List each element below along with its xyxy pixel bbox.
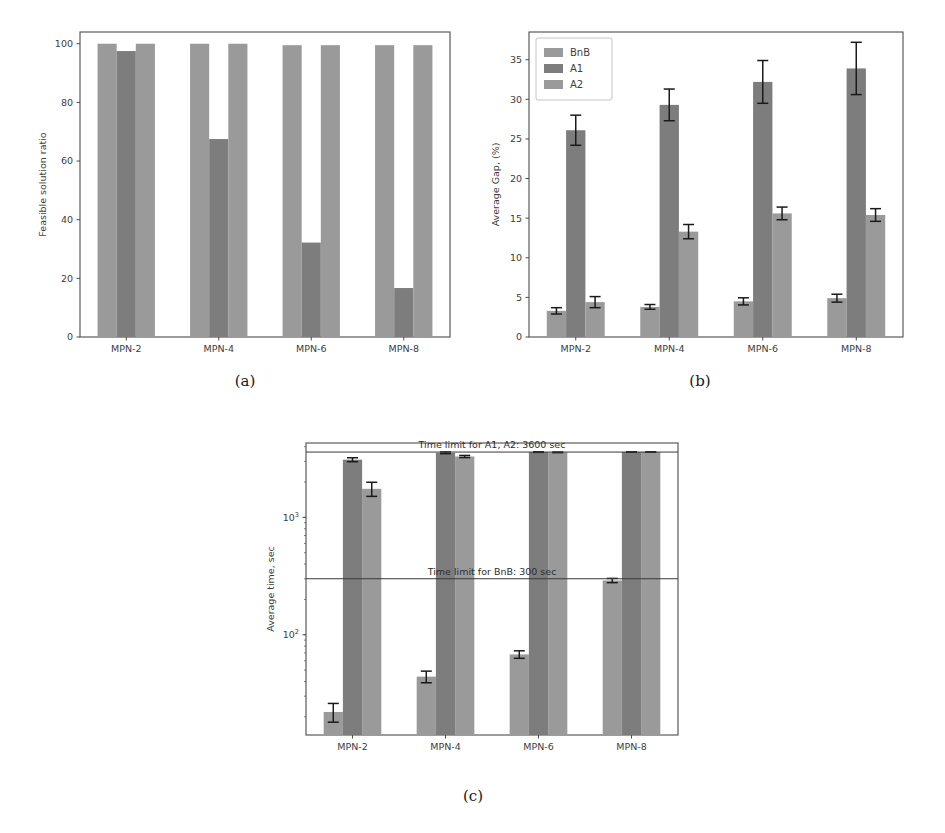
annotation-label-1: Time limit for BnB: 300 sec (427, 566, 557, 577)
bar-A2-MPN-8 (641, 452, 660, 735)
bar-BnB-MPN-8 (375, 45, 394, 337)
y-axis-label: Average time, sec (265, 546, 276, 632)
bar-BnB-MPN-4 (190, 44, 209, 337)
bar-BnB-MPN-6 (734, 301, 753, 337)
y-tick-label: 100 (55, 38, 73, 49)
panel-a-svg: 020406080100MPN-2MPN-4MPN-6MPN-8Feasible… (20, 18, 470, 398)
y-tick-label: 0 (67, 331, 73, 342)
bar-BnB-MPN-4 (417, 677, 436, 735)
legend-label-BnB: BnB (570, 47, 590, 58)
bar-A2-MPN-8 (413, 45, 432, 337)
bar-A2-MPN-2 (362, 489, 381, 735)
panel-c-average-time: 102103MPN-2MPN-4MPN-6MPN-8Average time, … (248, 425, 698, 815)
bar-A1-MPN-4 (660, 105, 679, 337)
bar-A2-MPN-6 (321, 45, 340, 337)
y-tick-label: 25 (510, 133, 522, 144)
bar-A1-MPN-6 (302, 243, 321, 337)
bar-A2-MPN-4 (679, 232, 698, 337)
panel-a-feasible-solution-ratio: 020406080100MPN-2MPN-4MPN-6MPN-8Feasible… (20, 18, 470, 398)
bar-BnB-MPN-8 (603, 580, 622, 735)
bar-A1-MPN-2 (343, 460, 362, 735)
panel-a-caption: (a) (20, 372, 470, 390)
y-tick-label: 20 (61, 273, 73, 284)
x-tick-label-MPN-4: MPN-4 (654, 343, 685, 354)
y-tick-label: 80 (61, 97, 73, 108)
y-tick-label: 5 (516, 292, 522, 303)
y-tick-label: 15 (510, 213, 522, 224)
y-axis-label: Average Gap, (%) (490, 143, 501, 227)
figure-container: 020406080100MPN-2MPN-4MPN-6MPN-8Feasible… (0, 0, 945, 833)
bar-A1-MPN-2 (566, 130, 585, 337)
x-tick-label-MPN-2: MPN-2 (337, 741, 368, 752)
x-tick-label-MPN-4: MPN-4 (203, 343, 234, 354)
x-tick-label-MPN-4: MPN-4 (430, 741, 461, 752)
y-tick-label: 20 (510, 173, 522, 184)
x-tick-label-MPN-8: MPN-8 (841, 343, 872, 354)
panel-b-svg: 05101520253035MPN-2MPN-4MPN-6MPN-8Averag… (475, 18, 925, 398)
errorbar-BnB-MPN-4 (644, 305, 655, 310)
x-tick-label-MPN-6: MPN-6 (296, 343, 327, 354)
y-tick-label: 102 (283, 628, 299, 640)
bar-A1-MPN-8 (622, 452, 641, 735)
y-tick-label: 103 (283, 511, 299, 523)
bar-BnB-MPN-8 (827, 298, 846, 337)
y-tick-label: 40 (61, 214, 73, 225)
y-tick-label: 10 (510, 252, 522, 263)
bar-A2-MPN-6 (772, 213, 791, 337)
y-tick-label: 60 (61, 155, 73, 166)
legend-label-A1: A1 (570, 63, 583, 74)
y-axis-label: Feasible solution ratio (37, 132, 48, 236)
bar-A1-MPN-6 (529, 452, 548, 735)
bar-BnB-MPN-6 (283, 45, 302, 337)
y-tick-label: 35 (510, 54, 522, 65)
bar-A1-MPN-4 (436, 453, 455, 735)
x-tick-label-MPN-6: MPN-6 (523, 741, 554, 752)
legend-swatch-BnB (544, 48, 563, 57)
annotation-label-0: Time limit for A1, A2: 3600 sec (418, 439, 566, 450)
panel-c-svg: 102103MPN-2MPN-4MPN-6MPN-8Average time, … (248, 425, 698, 815)
panel-b-caption: (b) (475, 372, 925, 390)
bar-A1-MPN-8 (847, 68, 866, 337)
bar-A1-MPN-2 (117, 51, 136, 337)
panel-b-average-gap: 05101520253035MPN-2MPN-4MPN-6MPN-8Averag… (475, 18, 925, 398)
legend-label-A2: A2 (570, 79, 583, 90)
legend-swatch-A1 (544, 64, 563, 73)
bar-BnB-MPN-2 (98, 44, 117, 337)
bar-A2-MPN-4 (228, 44, 247, 337)
x-tick-label-MPN-2: MPN-2 (560, 343, 591, 354)
bar-A2-MPN-6 (548, 452, 567, 735)
x-tick-label-MPN-8: MPN-8 (388, 343, 419, 354)
y-tick-label: 30 (510, 94, 522, 105)
x-tick-label-MPN-2: MPN-2 (111, 343, 142, 354)
x-tick-label-MPN-6: MPN-6 (747, 343, 778, 354)
x-tick-label-MPN-8: MPN-8 (616, 741, 647, 752)
bar-A2-MPN-2 (136, 44, 155, 337)
bar-A2-MPN-8 (866, 215, 885, 337)
y-tick-label: 0 (516, 331, 522, 342)
bar-BnB-MPN-4 (640, 307, 659, 337)
bar-A1-MPN-6 (753, 82, 772, 337)
legend-swatch-A2 (544, 80, 563, 89)
bar-BnB-MPN-6 (510, 654, 529, 735)
bar-A1-MPN-8 (394, 288, 413, 337)
bar-A2-MPN-4 (455, 457, 474, 736)
bar-BnB-MPN-2 (547, 311, 566, 337)
bar-A1-MPN-4 (209, 139, 228, 337)
panel-c-caption: (c) (248, 787, 698, 805)
